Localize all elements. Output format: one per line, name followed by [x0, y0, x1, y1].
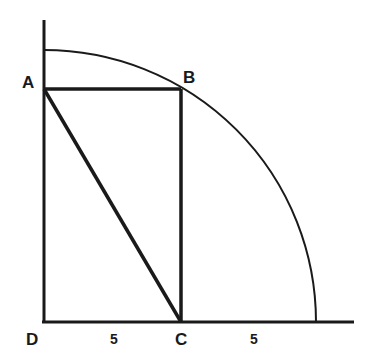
- length-label-C-to-arc: 5: [250, 331, 258, 347]
- length-label-DC: 5: [110, 331, 118, 347]
- point-label-B: B: [183, 68, 195, 87]
- geometry-diagram: A B D C 5 5: [0, 0, 372, 353]
- point-label-D: D: [26, 330, 38, 349]
- point-label-C: C: [175, 330, 187, 349]
- point-label-A: A: [22, 73, 34, 92]
- diagonal-AC: [44, 89, 181, 322]
